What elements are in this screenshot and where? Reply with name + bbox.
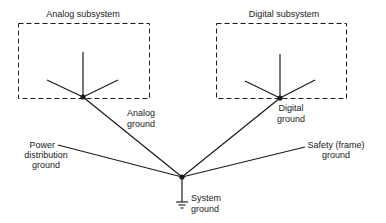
digital-subsystem-box: [217, 24, 347, 99]
safety-ground-label-line1: Safety (frame): [307, 140, 364, 150]
system-ground-label-line2: ground: [191, 204, 219, 214]
analog-subsystem-box: [19, 24, 150, 99]
earth-ground-icon: [176, 202, 188, 208]
analog-ground-label-line1: Analog: [127, 108, 155, 118]
grounding-diagram: Analog subsystem Digital subsystem An: [0, 0, 386, 223]
ground-lines: [58, 97, 305, 202]
analog-branch-lines: [47, 52, 118, 97]
analog-subsystem: Analog subsystem: [19, 9, 150, 100]
system-ground-label-line1: System: [191, 193, 221, 203]
power-ground-label-line1: Power: [29, 140, 55, 150]
digital-ground-label-line2: ground: [277, 114, 305, 124]
system-ground-node: [179, 174, 184, 179]
digital-subsystem: Digital subsystem: [217, 9, 347, 101]
safety-ground-label-line2: ground: [322, 150, 350, 160]
power-distribution-ground-line: [58, 145, 182, 177]
power-ground-label-line2: distribution: [24, 150, 68, 160]
analog-subsystem-title: Analog subsystem: [46, 9, 120, 19]
digital-ground-label-line1: Digital: [278, 103, 303, 113]
power-ground-label-line3: ground: [32, 160, 60, 170]
analog-ground-label-line2: ground: [127, 119, 155, 129]
digital-branch-lines: [245, 54, 315, 98]
digital-subsystem-title: Digital subsystem: [249, 9, 320, 19]
